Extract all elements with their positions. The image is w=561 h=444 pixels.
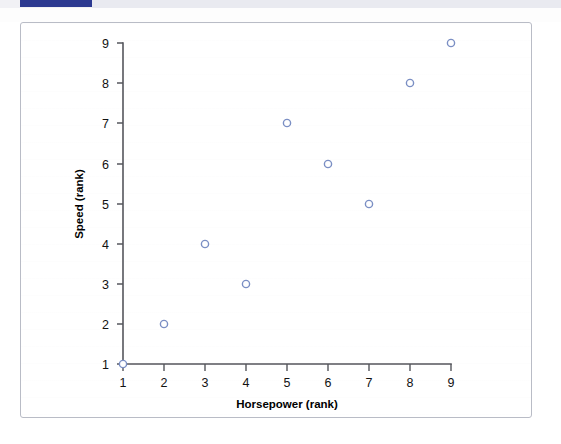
data-point [201, 240, 208, 247]
data-point [283, 119, 290, 126]
data-point [447, 39, 454, 46]
plot-svg: 9 8 7 6 5 4 3 2 1 [21, 23, 532, 418]
data-point [406, 79, 413, 86]
axis-spine [123, 43, 451, 364]
data-point-layer [119, 39, 454, 367]
x-axis-title: Horsepower (rank) [236, 398, 338, 410]
y-tick-label: 8 [102, 77, 109, 91]
x-axis-ticks [123, 364, 451, 371]
x-tick-label: 4 [243, 376, 250, 390]
y-tick-label: 6 [102, 158, 109, 172]
data-point [119, 360, 126, 367]
y-tick-label: 5 [102, 198, 109, 212]
x-tick-label: 8 [407, 376, 414, 390]
data-point [160, 320, 167, 327]
banner-gap [0, 8, 561, 22]
x-tick-label: 2 [161, 376, 168, 390]
figure-panel: 9 8 7 6 5 4 3 2 1 [20, 22, 532, 418]
banner-light-strip [92, 0, 561, 8]
data-point [242, 280, 249, 287]
y-tick-label: 9 [102, 37, 109, 51]
y-tick-label: 4 [102, 238, 109, 252]
scatter-plot: 9 8 7 6 5 4 3 2 1 [21, 23, 532, 418]
x-tick-label: 7 [366, 376, 373, 390]
x-tick-label: 5 [284, 376, 291, 390]
x-axis-tick-labels: 1 2 3 4 5 6 7 8 9 [120, 376, 455, 390]
y-tick-label: 7 [102, 117, 109, 131]
x-tick-label: 3 [202, 376, 209, 390]
y-tick-label: 2 [102, 318, 109, 332]
banner-accent-bar [20, 0, 92, 7]
y-tick-label: 3 [102, 278, 109, 292]
data-point [365, 200, 372, 207]
y-axis-tick-labels: 9 8 7 6 5 4 3 2 1 [102, 37, 109, 372]
y-axis-title: Speed (rank) [73, 169, 85, 239]
x-tick-label: 1 [120, 376, 127, 390]
y-axis-ticks [117, 43, 123, 364]
data-point [324, 160, 331, 167]
x-tick-label: 9 [448, 376, 455, 390]
y-tick-label: 1 [102, 358, 109, 372]
x-tick-label: 6 [325, 376, 332, 390]
